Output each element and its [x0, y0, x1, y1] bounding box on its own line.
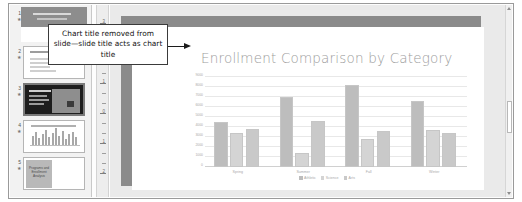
thumb4-axis [30, 145, 80, 146]
y-axis-tick-label: 0 [201, 163, 203, 167]
thumb1-subtitle-line [37, 18, 67, 20]
chart-bar[interactable] [295, 153, 309, 167]
chart-plot-area: 0100020003000400050006000700080009000Spr… [205, 77, 467, 167]
slide-star-icon: ★ [12, 92, 21, 97]
thumb4-bar [68, 134, 70, 145]
slide-star-icon: ★ [12, 17, 21, 22]
y-axis-tick-label: 9000 [195, 73, 203, 77]
thumb3-text-line [29, 99, 49, 101]
ruler-tick [102, 103, 106, 104]
thumb4-bar [75, 137, 77, 145]
chart-legend: AthleticScienceArts [183, 173, 471, 183]
y-axis-tick-label: 5000 [195, 113, 203, 117]
ruler-tick [102, 133, 106, 134]
thumb2-body-line [30, 66, 50, 68]
chart-bar[interactable] [311, 121, 325, 167]
thumb4-bar [32, 136, 34, 145]
legend-item[interactable]: Athletic [299, 176, 316, 181]
thumb3-picture [52, 89, 80, 113]
y-axis-tick-label: 1000 [195, 153, 203, 157]
thumb4-bar [55, 128, 57, 145]
chart-bar[interactable] [280, 97, 294, 167]
slide-frame: Enrollment Comparison by Category 010002… [121, 16, 481, 186]
scroll-down-arrow-icon[interactable] [507, 192, 511, 195]
thumb4-bar [52, 133, 54, 145]
thumbnail-slide-4[interactable] [23, 120, 85, 153]
slide-star-icon: ★ [12, 55, 21, 60]
chart-bar[interactable] [246, 129, 260, 167]
callout-box: Chart title removed from slide—slide tit… [48, 24, 168, 65]
ruler-tick [102, 73, 106, 74]
ruler-tick [102, 163, 106, 164]
y-axis-tick-label: 7000 [195, 93, 203, 97]
thumb3-picture-detail [67, 101, 74, 107]
chart-bar[interactable] [230, 133, 244, 167]
slide-star-icon: ★ [12, 129, 21, 134]
list-item[interactable]: 3 ★ [10, 82, 91, 118]
thumb4-bar [62, 131, 64, 145]
vertical-scrollbar[interactable] [505, 5, 512, 197]
chart-bar[interactable] [345, 85, 359, 167]
ruler-tick [102, 93, 106, 94]
ruler-tick [102, 123, 106, 124]
arrow-head [184, 43, 191, 49]
legend-label: Arts [349, 176, 355, 181]
thumb3-text-line [29, 103, 44, 105]
thumb4-bar [65, 139, 67, 145]
chart-bar[interactable] [361, 139, 375, 167]
callout-text: Chart title removed from slide—slide tit… [49, 29, 167, 61]
thumb5-text: Programs and Enrollment Analysis [28, 166, 50, 178]
legend-swatch [321, 176, 325, 180]
screenshot-root: 1 ★ 2 ★ 3 ★ [0, 0, 522, 202]
thumb4-bar [42, 134, 44, 145]
y-axis-tick-label: 6000 [195, 103, 203, 107]
chart-group: Summer [271, 77, 337, 167]
legend-swatch [344, 176, 348, 180]
chart-bar[interactable] [214, 122, 228, 167]
slide-canvas[interactable]: Enrollment Comparison by Category 010002… [132, 27, 484, 190]
list-item[interactable]: 5 ★ Programs and Enrollment Analysis [10, 156, 91, 192]
legend-item[interactable]: Arts [344, 176, 355, 181]
chart-group: Fall [336, 77, 402, 167]
thumbnail-slide-5[interactable]: Programs and Enrollment Analysis [23, 157, 85, 190]
y-axis-tick-label: 4000 [195, 123, 203, 127]
chart-bar[interactable] [411, 101, 425, 167]
thumb4-bar [58, 136, 60, 145]
thumb4-title-line [31, 125, 76, 127]
scrollbar-thumb[interactable] [507, 101, 513, 133]
thumb1-title-line [33, 13, 71, 15]
ruler-label: 1 [102, 139, 105, 144]
y-axis-tick-label: 2000 [195, 143, 203, 147]
thumb2-body-line [30, 70, 56, 72]
thumb4-bar [35, 132, 37, 145]
legend-item[interactable]: Science [321, 176, 339, 181]
thumb4-bar [45, 130, 47, 145]
scroll-up-arrow-icon[interactable] [507, 7, 511, 10]
legend-label: Athletic [304, 176, 316, 181]
thumbnail-slide-3[interactable] [23, 83, 85, 116]
bar-chart[interactable]: 0100020003000400050006000700080009000Spr… [183, 75, 471, 183]
y-axis-tick-label: 3000 [195, 133, 203, 137]
chart-bar[interactable] [426, 130, 440, 167]
ruler-label: 1 [102, 79, 105, 84]
slide-editing-pane[interactable]: Enrollment Comparison by Category 010002… [110, 5, 505, 197]
thumb4-bar [48, 137, 50, 145]
thumb4-bar [38, 138, 40, 145]
page-title[interactable]: Enrollment Comparison by Category [201, 50, 469, 66]
list-item[interactable]: 4 ★ [10, 119, 91, 155]
chart-group: Spring [205, 77, 271, 167]
slide-star-icon: ★ [12, 166, 21, 171]
ruler-label: 0 [102, 109, 105, 114]
right-arrow-icon [168, 43, 192, 50]
ruler-label: 2 [102, 169, 105, 174]
legend-swatch [299, 176, 303, 180]
chart-bar[interactable] [442, 133, 456, 167]
thumb3-text-line [29, 95, 47, 97]
ruler-tick [102, 153, 106, 154]
chart-group: Winter [402, 77, 468, 167]
thumb3-text-line [29, 90, 51, 92]
thumb4-bar [72, 132, 74, 145]
chart-bar[interactable] [377, 131, 391, 167]
legend-label: Science [326, 176, 339, 181]
y-axis-tick-label: 8000 [195, 83, 203, 87]
